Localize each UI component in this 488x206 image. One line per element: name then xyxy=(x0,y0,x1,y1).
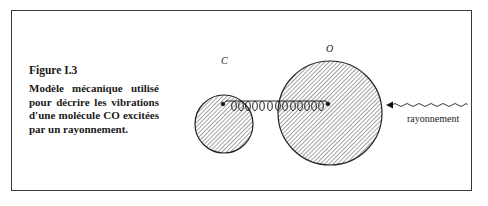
carbon-label: C xyxy=(221,55,228,66)
oxygen-atom xyxy=(278,61,382,165)
oxygen-label: O xyxy=(326,43,333,54)
co-molecule-diagram: C O rayonnement xyxy=(0,0,488,206)
radiation-wave-icon xyxy=(386,102,467,109)
radiation-label: rayonnement xyxy=(407,113,459,124)
